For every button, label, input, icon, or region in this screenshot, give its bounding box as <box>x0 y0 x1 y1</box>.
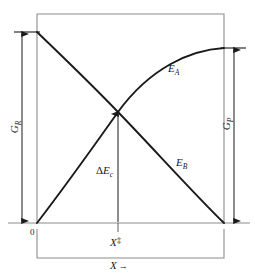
label-origin: 0 <box>30 227 35 237</box>
label-transition-state: X‡ <box>109 235 122 248</box>
curve-label-e-a-sub: A <box>174 68 180 77</box>
plot-frame <box>37 14 224 223</box>
axis-label-g-r: GR <box>8 120 23 133</box>
frame-outline <box>37 14 224 223</box>
axis-label-g-r-sub: R <box>14 120 23 126</box>
right-arrow-icon: → <box>119 261 128 271</box>
curve-e-a <box>37 48 224 223</box>
diagram-canvas: EA EB GR GP ΔEc 0 X‡ X→ <box>0 0 255 275</box>
axis-label-g-p-base: G <box>220 122 232 130</box>
double-dagger-icon: ‡ <box>117 235 122 245</box>
curve-label-e-a: EA <box>167 62 180 77</box>
g-p-annotation <box>221 48 246 221</box>
curve-e-b <box>37 32 224 223</box>
label-x-axis: X→ <box>109 259 128 271</box>
label-delta-ec-sub: c <box>110 170 114 179</box>
curve-label-e-b: EB <box>175 156 188 171</box>
axis-label-g-r-base: G <box>8 125 20 133</box>
axis-label-g-p: GP <box>220 117 235 130</box>
label-delta-ec: ΔEc <box>96 164 114 179</box>
x-bracket-outline <box>37 229 224 258</box>
curve-label-e-b-sub: B <box>183 162 188 171</box>
label-delta-ec-delta: Δ <box>96 164 103 176</box>
label-x-axis-base: X <box>109 259 118 271</box>
axis-label-g-p-sub: P <box>226 117 235 123</box>
energy-diagram-figure: EA EB GR GP ΔEc 0 X‡ X→ <box>0 0 255 275</box>
x-axis-bracket <box>37 229 224 258</box>
